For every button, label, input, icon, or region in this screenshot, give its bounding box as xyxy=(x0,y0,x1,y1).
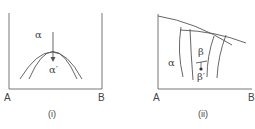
arrow-head-icon xyxy=(51,57,56,62)
phase-beta-prime-label-ii: β′ xyxy=(197,71,206,82)
boundary-4-ii xyxy=(217,35,226,78)
phase-alpha-label-i: α xyxy=(35,29,42,40)
axis-label-a-ii: A xyxy=(153,92,160,103)
phase-beta-label-ii: β xyxy=(198,46,204,57)
axes-frame-i xyxy=(9,13,102,89)
axis-label-a-i: A xyxy=(4,92,11,103)
caption-ii: (ii) xyxy=(198,109,208,119)
diagram-ii: α β β′ A B (ii) xyxy=(153,14,255,119)
phase-alpha-label-ii: α xyxy=(168,57,175,68)
boundary-1-ii xyxy=(179,27,183,77)
phase-alpha-prime-label-i: α′ xyxy=(49,64,59,75)
axis-label-b-i: B xyxy=(98,92,105,103)
diagram-i: α α′ A B (i) xyxy=(4,13,105,119)
axis-label-b-ii: B xyxy=(248,92,255,103)
caption-i: (i) xyxy=(48,109,56,119)
boundary-3-ii xyxy=(207,36,214,77)
boundary-2-ii xyxy=(190,29,193,80)
diagram-canvas: α α′ A B (i) α β β′ A B (ii) xyxy=(0,0,255,129)
tie-line-ii xyxy=(196,61,207,63)
